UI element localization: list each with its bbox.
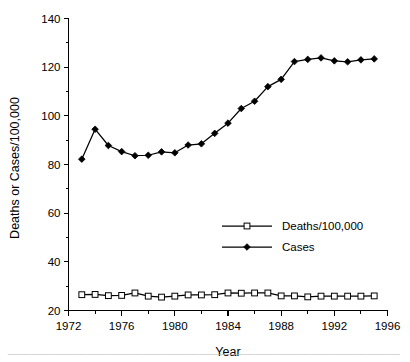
- x-tick-label: 1992: [322, 320, 348, 332]
- data-point-marker: [158, 149, 165, 156]
- data-point-marker: [212, 292, 218, 298]
- axes-group: [69, 19, 388, 311]
- x-axis-ticks: [69, 311, 388, 316]
- legend-label: Deaths/100,000: [282, 220, 363, 232]
- data-point-marker: [371, 56, 378, 63]
- y-tick-label: 140: [41, 13, 60, 25]
- legend-marker-open-square: [244, 223, 250, 229]
- x-tick-label: 1988: [268, 320, 294, 332]
- data-point-marker: [105, 293, 111, 299]
- y-tick-label: 20: [48, 305, 61, 317]
- clipped-caption-strip: ———————————————————————————————————: [0, 353, 410, 362]
- data-point-marker: [318, 55, 325, 62]
- data-point-marker: [199, 292, 205, 298]
- data-point-marker: [331, 293, 337, 299]
- series-deaths: [79, 290, 377, 300]
- data-point-marker: [318, 293, 324, 299]
- y-tick-label: 60: [48, 207, 61, 219]
- data-point-marker: [118, 148, 125, 155]
- x-tick-label: 1976: [109, 320, 135, 332]
- data-point-marker: [344, 59, 351, 66]
- data-point-marker: [358, 293, 364, 299]
- legend-label: Cases: [282, 241, 315, 253]
- data-point-marker: [172, 293, 178, 299]
- data-point-marker: [145, 152, 152, 159]
- y-tick-label: 100: [41, 110, 60, 122]
- clipped-caption-text: ———————————————————————————————————: [8, 353, 400, 359]
- data-point-marker: [225, 290, 231, 296]
- data-point-marker: [345, 293, 351, 299]
- chart-legend: Deaths/100,000Cases: [222, 220, 363, 253]
- y-tick-label: 40: [48, 256, 61, 268]
- data-point-marker: [185, 292, 191, 298]
- x-tick-label: 1996: [375, 320, 401, 332]
- data-point-marker: [132, 152, 139, 159]
- data-point-marker: [292, 293, 298, 299]
- data-point-marker: [371, 293, 377, 299]
- y-axis-title: Deaths or Cases/100,000: [8, 97, 22, 239]
- y-tick-label: 120: [41, 61, 60, 73]
- x-tick-label: 1984: [215, 320, 241, 332]
- data-point-marker: [92, 292, 98, 298]
- data-point-marker: [185, 142, 192, 149]
- data-point-marker: [252, 290, 258, 296]
- data-point-marker: [304, 56, 311, 63]
- data-point-marker: [79, 292, 85, 298]
- data-point-marker: [305, 294, 311, 300]
- data-point-marker: [278, 293, 284, 299]
- data-point-marker: [358, 57, 365, 64]
- data-point-marker: [78, 156, 85, 163]
- y-axis-tick-labels: 20406080100120140: [41, 13, 60, 317]
- y-axis-ticks: [64, 19, 69, 311]
- x-tick-label: 1972: [56, 320, 82, 332]
- figure-container: 20406080100120140 1972197619801984198819…: [0, 0, 410, 362]
- line-chart: 20406080100120140 1972197619801984198819…: [0, 0, 410, 362]
- data-point-marker: [132, 290, 138, 296]
- x-axis-tick-labels: 1972197619801984198819921996: [56, 320, 401, 332]
- data-point-marker: [265, 290, 271, 296]
- data-point-marker: [172, 150, 179, 157]
- data-point-marker: [331, 58, 338, 65]
- x-tick-label: 1980: [162, 320, 188, 332]
- legend-marker-filled-diamond: [244, 244, 251, 251]
- y-tick-label: 80: [48, 159, 61, 171]
- series-path: [82, 58, 374, 159]
- data-point-marker: [119, 293, 125, 299]
- data-point-marker: [145, 293, 151, 299]
- data-point-marker: [238, 290, 244, 296]
- series-cases: [78, 55, 377, 163]
- data-point-marker: [159, 294, 165, 300]
